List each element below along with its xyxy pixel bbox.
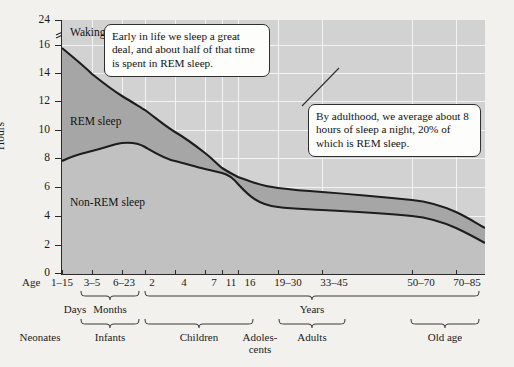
y-label-4: 4 bbox=[24, 209, 50, 221]
y-tick-8 bbox=[55, 158, 61, 159]
y-tick-6 bbox=[55, 187, 61, 188]
y-tick-14 bbox=[55, 73, 61, 74]
stage-group-neonates: Neonates bbox=[20, 331, 61, 343]
brace-years bbox=[144, 290, 480, 301]
stage-group-adults: Adults bbox=[297, 331, 326, 343]
x-label-7: 11 bbox=[226, 276, 237, 288]
callout-adulthood: By adulthood, we average about 8 hours o… bbox=[308, 104, 481, 157]
y-label-24: 24 bbox=[24, 13, 50, 25]
x-label-2: 3–5 bbox=[84, 276, 101, 288]
x-tick-4 bbox=[145, 270, 146, 275]
unit-group-months: Months bbox=[93, 303, 127, 315]
x-label-3: 6–23 bbox=[113, 276, 135, 288]
unit-group-years: Years bbox=[300, 303, 325, 315]
stage-group-adolescents: Adoles- cents bbox=[243, 331, 278, 355]
y-label-16: 16 bbox=[24, 38, 50, 50]
y-label-14: 14 bbox=[24, 66, 50, 78]
x-axis-title: Age bbox=[22, 276, 40, 288]
y-label-10: 10 bbox=[24, 123, 50, 135]
brace-infants bbox=[80, 318, 140, 329]
y-label-8: 8 bbox=[24, 151, 50, 163]
y-tick-4 bbox=[55, 216, 61, 217]
stage-group-old-age: Old age bbox=[428, 331, 463, 343]
x-tick-1 bbox=[62, 270, 63, 275]
stage-group-children: Children bbox=[180, 331, 219, 343]
x-tick-8 bbox=[238, 270, 239, 275]
x-label-9: 19–30 bbox=[274, 276, 302, 288]
brace-old-age bbox=[410, 318, 480, 329]
y-tick-16 bbox=[55, 45, 61, 46]
x-tick-12 bbox=[456, 270, 457, 275]
y-tick-2 bbox=[55, 245, 61, 246]
x-label-12: 70–85 bbox=[453, 276, 481, 288]
y-axis-title: Hours bbox=[0, 122, 6, 150]
y-tick-10 bbox=[55, 130, 61, 131]
x-tick-9 bbox=[278, 270, 279, 275]
unit-group-days: Days bbox=[64, 303, 87, 315]
x-tick-10 bbox=[322, 270, 323, 275]
x-label-1: 1–15 bbox=[51, 276, 73, 288]
brace-adults bbox=[278, 318, 346, 329]
y-label-6: 6 bbox=[24, 180, 50, 192]
y-tick-24 bbox=[55, 20, 61, 21]
x-label-8: 16 bbox=[245, 276, 256, 288]
y-label-2: 2 bbox=[24, 238, 50, 250]
leader-line-right bbox=[302, 68, 339, 106]
callout-early-life: Early in life we sleep a great deal, and… bbox=[104, 24, 270, 77]
x-tick-2 bbox=[92, 270, 93, 275]
y-tick-12 bbox=[55, 101, 61, 102]
x-tick-5 bbox=[175, 270, 176, 275]
sleep-chart-figure: Hours 24 16 14 12 10 8 6 4 2 0 bbox=[0, 0, 514, 367]
x-label-10: 33–45 bbox=[320, 276, 348, 288]
x-tick-11 bbox=[412, 270, 413, 275]
brace-months bbox=[80, 290, 140, 301]
x-label-5: 4 bbox=[181, 276, 187, 288]
x-axis-line bbox=[61, 274, 485, 275]
stage-group-infants: Infants bbox=[95, 331, 126, 343]
x-tick-7 bbox=[222, 270, 223, 275]
x-label-11: 50–70 bbox=[407, 276, 435, 288]
y-label-12: 12 bbox=[24, 94, 50, 106]
x-tick-6 bbox=[205, 270, 206, 275]
x-label-6: 7 bbox=[211, 276, 217, 288]
x-tick-3 bbox=[122, 270, 123, 275]
x-label-4: 2 bbox=[149, 276, 155, 288]
brace-children bbox=[144, 318, 254, 329]
